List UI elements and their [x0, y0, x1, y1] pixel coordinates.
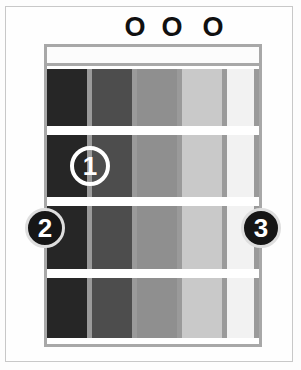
string-line-2 [132, 69, 137, 344]
string-line-1 [87, 69, 92, 344]
string-lanes [47, 69, 259, 344]
string-lane-2 [92, 69, 133, 344]
finger-marker-3: 3 [241, 208, 281, 248]
string-line-5 [254, 69, 259, 344]
string-line-4 [222, 69, 227, 344]
finger-marker-2: 2 [25, 208, 65, 248]
string-line-3 [177, 69, 182, 344]
open-string-marker-3: O [200, 12, 226, 42]
string-lane-1 [47, 69, 88, 344]
string-lane-3 [137, 69, 178, 344]
string-lane-4 [182, 69, 223, 344]
open-string-marker-2: O [159, 12, 185, 42]
nut [47, 47, 259, 66]
fret-line-3 [47, 269, 259, 278]
fret-line-1 [47, 126, 259, 135]
open-string-marker-row: O O O [0, 12, 301, 42]
finger-marker-1: 1 [70, 146, 110, 186]
open-string-marker-1: O [122, 12, 148, 42]
fretboard [44, 44, 262, 347]
fret-line-4 [47, 338, 259, 347]
chord-diagram: O O O 1 2 3 [0, 0, 301, 370]
fret-line-2 [47, 197, 259, 206]
